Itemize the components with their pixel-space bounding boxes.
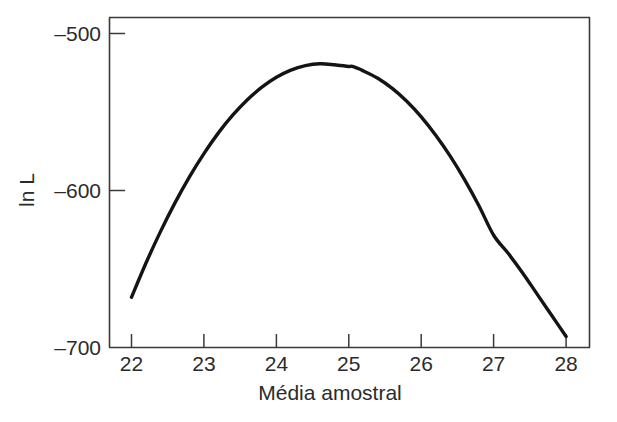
x-tick-label-24: 24 bbox=[265, 352, 289, 375]
y-axis-title: ln L bbox=[15, 173, 38, 207]
x-tick-label-28: 28 bbox=[554, 352, 577, 375]
line-chart: –500 –600 –700 22 23 24 25 26 27 28 Médi… bbox=[0, 0, 617, 422]
likelihood-curve bbox=[132, 64, 567, 337]
x-tick-labels: 22 23 24 25 26 27 28 bbox=[120, 352, 578, 375]
x-tick-label-27: 27 bbox=[482, 352, 505, 375]
x-tick-label-25: 25 bbox=[337, 352, 360, 375]
x-axis-ticks bbox=[132, 334, 567, 348]
y-axis-ticks bbox=[110, 34, 126, 191]
y-tick-label-minus500: –500 bbox=[54, 22, 101, 45]
y-tick-label-minus600: –600 bbox=[54, 179, 101, 202]
x-tick-label-26: 26 bbox=[410, 352, 433, 375]
figure-container: –500 –600 –700 22 23 24 25 26 27 28 Médi… bbox=[0, 0, 617, 422]
y-tick-labels: –500 –600 –700 bbox=[54, 22, 101, 359]
x-tick-label-22: 22 bbox=[120, 352, 143, 375]
x-tick-label-23: 23 bbox=[192, 352, 215, 375]
x-axis-title: Média amostral bbox=[258, 381, 402, 404]
y-tick-label-minus700: –700 bbox=[54, 336, 101, 359]
